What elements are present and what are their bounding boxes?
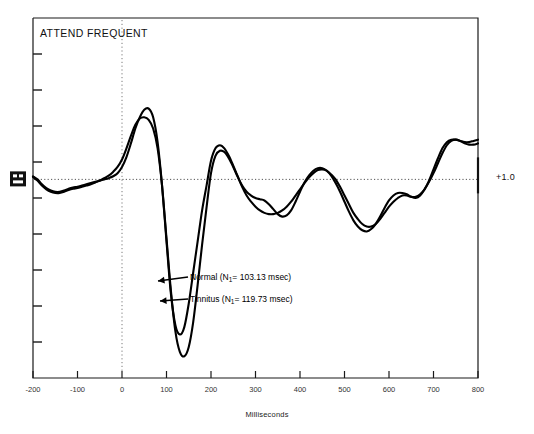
page-title: ATTEND FREQUENT	[40, 27, 148, 39]
x-tick-label: -200	[25, 385, 40, 394]
series-label-tinnitus-sub: 1	[231, 298, 235, 305]
series-label-tinnitus-prefix: Tinnitus (N	[190, 294, 231, 304]
calibration-marker-icon	[10, 171, 26, 186]
series-label-normal-prefix: Normal (N	[190, 272, 229, 282]
chart-figure: ATTEND FREQUENT +1.0 Milliseconds -200-1…	[0, 0, 534, 434]
series-label-tinnitus-suffix: = 119.73 msec)	[234, 294, 292, 304]
x-tick-label: 0	[120, 385, 124, 394]
x-tick-label: 700	[427, 385, 440, 394]
x-tick-label: 600	[383, 385, 396, 394]
x-axis-title: Milliseconds	[0, 410, 534, 419]
x-tick-label: 500	[338, 385, 351, 394]
chart-background	[0, 0, 534, 434]
series-label-normal-suffix: = 103.13 msec)	[232, 272, 291, 282]
x-tick-label: 100	[160, 385, 173, 394]
x-tick-label: 800	[472, 385, 485, 394]
x-tick-label: 400	[294, 385, 307, 394]
series-label-tinnitus: Tinnitus (N1= 119.73 msec)	[190, 294, 293, 304]
series-label-normal-sub: 1	[229, 276, 233, 283]
series-label-normal: Normal (N1= 103.13 msec)	[190, 272, 291, 282]
erp-waveform-chart	[0, 0, 534, 434]
x-tick-label: 300	[249, 385, 262, 394]
x-tick-label: -100	[70, 385, 85, 394]
amplitude-scale-label: +1.0	[496, 172, 515, 182]
x-tick-label: 200	[205, 385, 218, 394]
